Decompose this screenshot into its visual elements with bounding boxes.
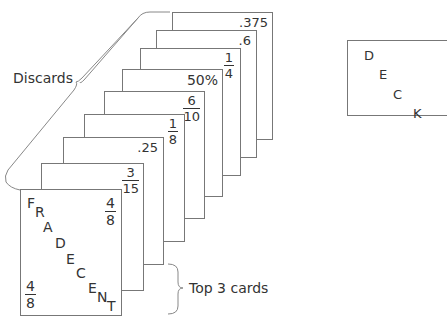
top-cards-caption: Top 3 cards <box>189 280 268 296</box>
card-fraction: 14 <box>224 51 234 80</box>
corner-fraction-top: 48 <box>105 196 116 227</box>
title-letter: F <box>27 195 35 211</box>
card-label: 50% <box>187 73 218 87</box>
deck-letter: D <box>364 48 374 63</box>
deck-letter: C <box>393 87 402 102</box>
title-letter: T <box>107 298 116 314</box>
title-letter: E <box>66 251 75 267</box>
title-letter: R <box>35 204 45 220</box>
card-fraction: 18 <box>168 117 178 146</box>
card-label: .6 <box>239 34 251 47</box>
title-letter: C <box>76 265 86 281</box>
discards-caption: Discards <box>13 70 73 86</box>
deck-letter: E <box>379 67 387 82</box>
front-card-fradecent: F R A D E C E N T 48 48 <box>20 189 122 316</box>
title-letter: N <box>97 289 107 305</box>
card-label: .375 <box>239 16 268 29</box>
deck-letter: K <box>413 106 422 121</box>
card-label: .25 <box>137 141 158 154</box>
title-letter: A <box>43 219 53 235</box>
title-letter: D <box>55 235 66 251</box>
corner-fraction-bottom: 48 <box>25 279 36 310</box>
title-letter: E <box>88 280 97 296</box>
card-fraction: 610 <box>183 94 200 123</box>
deck-box: D E C K <box>347 40 447 116</box>
card-fraction: 315 <box>122 166 139 195</box>
